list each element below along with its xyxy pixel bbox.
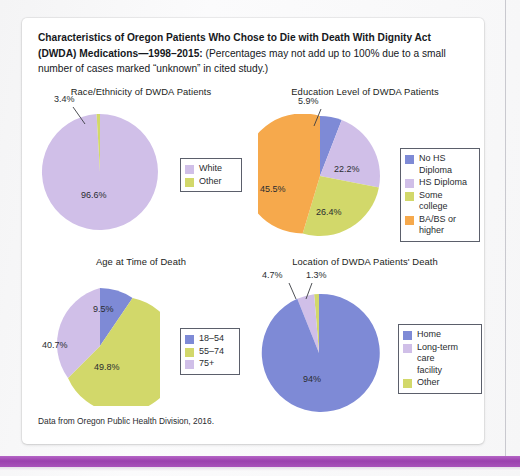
pie-label-ba-bs-or-higher: 45.5% bbox=[260, 184, 286, 194]
chart-panel-location-of-death: Location of DWDA Patients' Death 4.7% 1.… bbox=[250, 256, 480, 414]
legend-location-of-death[interactable]: Home Long-term care facility Other bbox=[398, 324, 482, 394]
legend-label-location-other: Other bbox=[417, 377, 440, 389]
legend-item-long-term-care[interactable]: Long-term care facility bbox=[403, 342, 475, 377]
page-accent-bar-shadow bbox=[0, 467, 520, 471]
legend-label-hs-diploma: HS Diploma bbox=[419, 177, 467, 189]
pie-leader-line-long-term-care bbox=[286, 282, 302, 304]
legend-label-age-75-plus: 75+ bbox=[199, 358, 214, 370]
pie-label-age-55-74: 49.8% bbox=[94, 362, 120, 372]
legend-item-age-18-54[interactable]: 18–54 bbox=[185, 333, 233, 345]
chart-title-location-of-death: Location of DWDA Patients' Death bbox=[250, 256, 480, 267]
legend-label-white: White bbox=[199, 163, 222, 175]
legend-item-location-other[interactable]: Other bbox=[403, 377, 475, 389]
legend-label-age-55-74: 55–74 bbox=[199, 346, 224, 358]
pie-label-some-college: 26.4% bbox=[316, 207, 342, 217]
legend-swatch-white-icon bbox=[185, 165, 194, 174]
legend-item-no-hs-diploma[interactable]: No HS Diploma bbox=[405, 153, 473, 176]
legend-age-at-death[interactable]: 18–54 55–74 75+ bbox=[180, 328, 240, 375]
legend-label-long-term-care: Long-term care facility bbox=[417, 342, 475, 377]
legend-item-hs-diploma[interactable]: HS Diploma bbox=[405, 177, 473, 189]
pie-chart-location-of-death bbox=[258, 292, 380, 414]
pie-slice-home bbox=[262, 294, 380, 412]
source-note: Data from Oregon Public Health Division,… bbox=[38, 416, 214, 426]
pie-label-home: 94% bbox=[303, 374, 321, 384]
pie-label-other-race: 3.4% bbox=[54, 94, 75, 104]
legend-swatch-other-icon bbox=[185, 178, 194, 187]
pie-chart-race-ethnicity bbox=[40, 112, 160, 232]
pie-label-no-hs-diploma: 5.9% bbox=[298, 96, 319, 106]
legend-swatch-home-icon bbox=[403, 331, 412, 340]
pie-label-white-race: 96.6% bbox=[81, 190, 107, 200]
page-accent-bar bbox=[0, 456, 520, 467]
chart-panel-age-at-death: Age at Time of Death 9.5% 49.8% 40.7% 18… bbox=[30, 256, 252, 411]
pie-chart-education-level bbox=[258, 114, 382, 238]
pie-leader-line-location-other bbox=[302, 282, 318, 304]
pie-leader-line-no-hs-diploma bbox=[311, 108, 327, 130]
chart-title-age-at-death: Age at Time of Death bbox=[30, 256, 252, 267]
pie-leader-line-other-race bbox=[70, 106, 94, 128]
pie-label-hs-diploma: 22.2% bbox=[334, 164, 360, 174]
legend-swatch-age-75-plus-icon bbox=[185, 360, 194, 369]
chart-panel-race-ethnicity: Race/Ethnicity of DWDA Patients 3.4% 96.… bbox=[30, 86, 252, 236]
legend-label-some-college: Some college bbox=[419, 190, 473, 213]
pie-label-long-term-care: 4.7% bbox=[262, 270, 283, 280]
legend-label-home: Home bbox=[417, 329, 441, 341]
legend-item-white[interactable]: White bbox=[185, 163, 235, 175]
legend-item-ba-bs-or-higher[interactable]: BA/BS or higher bbox=[405, 214, 473, 237]
legend-swatch-age-55-74-icon bbox=[185, 348, 194, 357]
legend-label-other: Other bbox=[199, 176, 222, 188]
legend-item-some-college[interactable]: Some college bbox=[405, 190, 473, 213]
legend-swatch-long-term-care-icon bbox=[403, 344, 412, 353]
legend-label-no-hs-diploma: No HS Diploma bbox=[419, 153, 473, 176]
legend-item-home[interactable]: Home bbox=[403, 329, 475, 341]
legend-education-level[interactable]: No HS Diploma HS Diploma Some college BA… bbox=[400, 148, 480, 242]
legend-item-other[interactable]: Other bbox=[185, 176, 235, 188]
pie-label-age-18-54: 9.5% bbox=[93, 304, 114, 314]
pie-label-location-other: 1.3% bbox=[306, 270, 327, 280]
legend-swatch-age-18-54-icon bbox=[185, 335, 194, 344]
legend-label-age-18-54: 18–54 bbox=[199, 333, 224, 345]
chart-panel-education-level: Education Level of DWDA Patients 5.9% 22… bbox=[250, 86, 480, 241]
legend-swatch-ba-bs-or-higher-icon bbox=[405, 216, 414, 225]
pie-label-age-75-plus: 40.7% bbox=[42, 340, 68, 350]
legend-swatch-some-college-icon bbox=[405, 192, 414, 201]
legend-item-age-55-74[interactable]: 55–74 bbox=[185, 346, 233, 358]
legend-swatch-hs-diploma-icon bbox=[405, 179, 414, 188]
chart-title-education-level: Education Level of DWDA Patients bbox=[250, 86, 480, 97]
legend-item-age-75-plus[interactable]: 75+ bbox=[185, 358, 233, 370]
page-margin-rule bbox=[505, 0, 506, 458]
figure-card: Characteristics of Oregon Patients Who C… bbox=[22, 18, 484, 444]
figure-title: Characteristics of Oregon Patients Who C… bbox=[38, 30, 468, 77]
legend-swatch-no-hs-diploma-icon bbox=[405, 155, 414, 164]
legend-swatch-location-other-icon bbox=[403, 379, 412, 388]
legend-race-ethnicity[interactable]: White Other bbox=[180, 158, 242, 192]
legend-label-ba-bs-or-higher: BA/BS or higher bbox=[419, 214, 456, 237]
